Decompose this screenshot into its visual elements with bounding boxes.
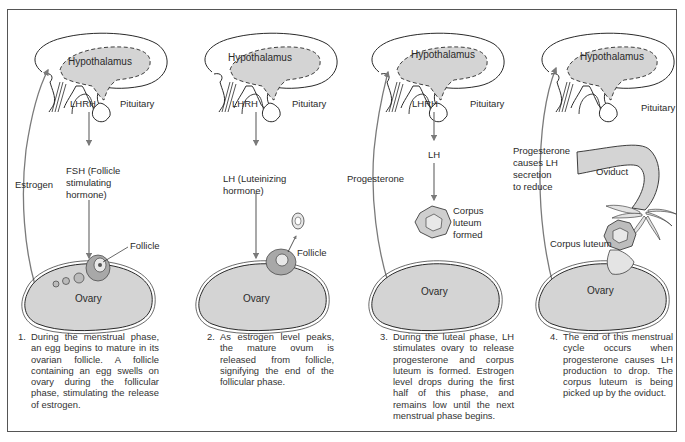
panel-4-ovary-label: Ovary [587, 285, 614, 296]
panel-1-caption: 1. During the menstrual phase, an egg be… [31, 331, 159, 410]
panel-1-lhrh-label: LHRH [70, 98, 96, 109]
panel-4-feedback-line2: causes LH [513, 157, 558, 168]
panel-4-hypothalamus-label: Hypothalamus [580, 51, 644, 62]
panel-3-corpus-line2: luteum [453, 217, 482, 228]
panel-2-hormone-line2: hormone) [223, 185, 264, 196]
panel-4-pituitary-label: Pituitary [641, 102, 675, 113]
panel-3-feedback-label: Progesterone [347, 173, 404, 184]
panel-1-pituitary-label: Pituitary [120, 98, 154, 109]
panel-1-hormone-line3: hormone) [66, 189, 107, 200]
panel-2-caption: 2. As estrogen level peaks, the mature o… [220, 331, 334, 387]
panel-2-ovary-label: Ovary [243, 293, 270, 304]
panel-1-hypothalamus-label: Hypothalamus [68, 56, 132, 67]
panel-3-caption-number: 3. [380, 331, 388, 342]
panel-1-feedback-label: Estrogen [15, 179, 53, 190]
panel-3-hormone-label: LH [428, 149, 440, 160]
panel-4-caption-text: The end of this menstrual cycle occurs w… [563, 331, 673, 398]
panel-3-corpus-line1: Corpus [453, 205, 484, 216]
panel-2-pituitary-label: Pituitary [292, 98, 326, 109]
panel-2-hormone-line1: LH (Luteinizing [223, 173, 286, 184]
panel-1-caption-number: 1. [18, 331, 26, 342]
panel-3-ovary-label: Ovary [421, 286, 448, 297]
panel-1-caption-text: During the menstrual phase, an egg begin… [31, 331, 159, 410]
panel-2-lhrh-label: LHRH [232, 98, 258, 109]
panel-4-feedback-line3: secretion [513, 169, 552, 180]
panel-1-follicle-label: Follicle [130, 240, 160, 251]
panel-1-hormone-line2: stimulating [66, 177, 111, 188]
panel-4-caption-number: 4. [550, 331, 558, 342]
panel-1-hormone-line1: FSH (Follicle [66, 165, 120, 176]
panel-4-caption: 4. The end of this menstrual cycle occur… [563, 331, 673, 399]
panel-3-pituitary-label: Pituitary [470, 98, 504, 109]
panel-2-caption-number: 2. [207, 331, 215, 342]
panel-1-ovary-label: Ovary [75, 293, 102, 304]
panel-3-lhrh-label: LHRH [412, 98, 438, 109]
panel-3-caption-text: During the luteal phase, LH stimulates o… [393, 331, 514, 421]
panel-3-corpus-line3: formed [453, 229, 483, 240]
panel-4-feedback-line4: to reduce [513, 181, 553, 192]
panel-2-hypothalamus-label: Hypothalamus [228, 52, 292, 63]
panel-3-caption: 3. During the luteal phase, LH stimulate… [393, 331, 514, 421]
panel-4-feedback-line1: Progesterone [513, 145, 570, 156]
panel-2-follicle-label: Follicle [297, 247, 327, 258]
panel-2-caption-text: As estrogen level peaks, the mature ovum… [220, 331, 334, 387]
panel-3-hypothalamus-label: Hypothalamus [411, 49, 475, 60]
panel-4-oviduct-label: Oviduct [596, 166, 628, 177]
panel-4-corpus-label: Corpus luteum [550, 238, 612, 249]
